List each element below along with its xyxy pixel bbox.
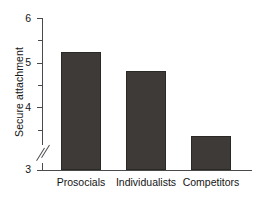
bar-chart: Secure attachment 6 5 4 3 Prosocials Ind… — [0, 0, 265, 201]
bar-individualists[interactable] — [126, 71, 166, 170]
x-tick-label-individualists: Individualists — [111, 176, 181, 188]
bar-prosocials[interactable] — [61, 52, 101, 170]
bars-layer — [0, 0, 265, 201]
x-tick-label-competitors: Competitors — [181, 176, 241, 188]
bar-competitors[interactable] — [191, 136, 231, 170]
x-tick-label-prosocials: Prosocials — [51, 176, 111, 188]
